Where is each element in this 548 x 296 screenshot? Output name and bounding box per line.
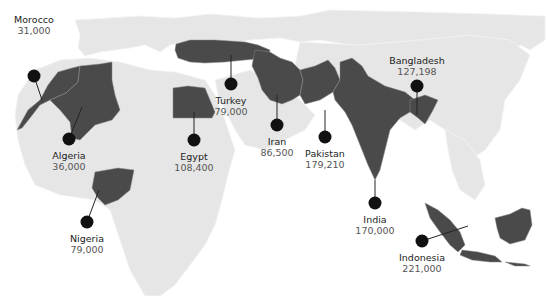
marker-turkey[interactable] [225,78,238,91]
label-algeria: Algeria 36,000 [52,150,85,172]
country-value: 221,000 [399,263,445,274]
country-value: 31,000 [14,25,54,36]
country-name: Bangladesh [389,55,445,66]
country-value: 86,500 [260,147,293,158]
country-name: Turkey [214,95,247,106]
label-bangladesh: Bangladesh 127,198 [389,55,445,77]
label-indonesia: Indonesia 221,000 [399,252,445,274]
country-name: Morocco [14,14,54,25]
marker-pakistan[interactable] [319,131,332,144]
label-morocco: Morocco 31,000 [14,14,54,36]
marker-morocco[interactable] [28,70,41,83]
indonesia-borneo [495,208,532,244]
country-value: 170,000 [355,225,394,236]
marker-indonesia[interactable] [416,235,429,248]
country-value: 36,000 [52,161,85,172]
marker-egypt[interactable] [188,134,201,147]
indonesia-sumatra [425,203,465,252]
indonesia-islands [505,262,530,266]
indonesia-java [460,250,502,262]
country-name: Indonesia [399,252,445,263]
country-name: Egypt [174,151,213,162]
country-name: Nigeria [70,233,104,244]
marker-india[interactable] [369,197,382,210]
marker-bangladesh[interactable] [411,80,424,93]
country-name: India [355,214,394,225]
label-nigeria: Nigeria 79,000 [70,233,104,255]
label-india: India 170,000 [355,214,394,236]
country-value: 79,000 [70,244,104,255]
country-name: Iran [260,136,293,147]
label-iran: Iran 86,500 [260,136,293,158]
label-turkey: Turkey 79,000 [214,95,247,117]
label-pakistan: Pakistan 179,210 [305,148,345,170]
country-value: 127,198 [389,66,445,77]
country-name: Pakistan [305,148,345,159]
marker-algeria[interactable] [63,133,76,146]
marker-iran[interactable] [271,119,284,132]
marker-nigeria[interactable] [81,216,94,229]
label-egypt: Egypt 108,400 [174,151,213,173]
country-value: 79,000 [214,106,247,117]
country-name: Algeria [52,150,85,161]
country-value: 179,210 [305,159,345,170]
country-value: 108,400 [174,162,213,173]
